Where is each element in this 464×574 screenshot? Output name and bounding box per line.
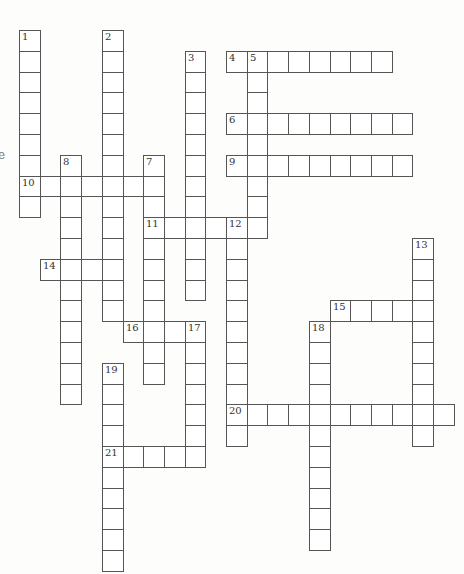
crossword-cell[interactable]: [19, 134, 41, 156]
crossword-cell[interactable]: [247, 404, 268, 426]
crossword-cell[interactable]: [247, 92, 268, 114]
crossword-cell[interactable]: [267, 155, 289, 177]
crossword-cell[interactable]: [433, 404, 455, 426]
crossword-cell[interactable]: 7: [143, 155, 165, 177]
crossword-cell[interactable]: 16: [123, 321, 144, 343]
crossword-cell[interactable]: 9: [226, 155, 248, 177]
crossword-cell[interactable]: 13: [412, 238, 434, 260]
crossword-cell[interactable]: [102, 550, 124, 572]
crossword-cell[interactable]: [247, 217, 268, 239]
crossword-cell[interactable]: [185, 134, 206, 156]
crossword-cell[interactable]: [309, 508, 331, 530]
crossword-cell[interactable]: [309, 425, 331, 447]
crossword-cell[interactable]: 4: [226, 51, 248, 73]
crossword-cell[interactable]: [102, 384, 124, 405]
crossword-cell[interactable]: [81, 259, 103, 281]
crossword-cell[interactable]: [226, 384, 248, 405]
crossword-cell[interactable]: [102, 51, 124, 73]
crossword-cell[interactable]: [19, 113, 41, 135]
crossword-cell[interactable]: 18: [309, 321, 331, 343]
crossword-cell[interactable]: [350, 113, 372, 135]
crossword-cell[interactable]: [185, 446, 206, 468]
crossword-cell[interactable]: [309, 488, 331, 509]
crossword-cell[interactable]: [226, 259, 248, 281]
crossword-cell[interactable]: [60, 259, 82, 281]
crossword-cell[interactable]: [102, 155, 124, 177]
crossword-cell[interactable]: [309, 363, 331, 385]
crossword-cell[interactable]: [412, 300, 434, 322]
crossword-cell[interactable]: [350, 51, 372, 73]
crossword-cell[interactable]: [185, 404, 206, 426]
crossword-cell[interactable]: [60, 384, 82, 405]
crossword-cell[interactable]: [60, 280, 82, 301]
crossword-cell[interactable]: [330, 404, 351, 426]
crossword-cell[interactable]: [60, 176, 82, 197]
crossword-cell[interactable]: [102, 196, 124, 218]
crossword-cell[interactable]: [185, 217, 206, 239]
crossword-cell[interactable]: [371, 300, 393, 322]
crossword-cell[interactable]: [102, 217, 124, 239]
crossword-cell[interactable]: [350, 155, 372, 177]
crossword-cell[interactable]: [143, 259, 165, 281]
crossword-cell[interactable]: [60, 321, 82, 343]
crossword-cell[interactable]: [185, 280, 206, 301]
crossword-cell[interactable]: [102, 72, 124, 93]
crossword-cell[interactable]: [226, 238, 248, 260]
crossword-cell[interactable]: 3: [185, 51, 206, 73]
crossword-cell[interactable]: [102, 425, 124, 447]
crossword-cell[interactable]: [102, 259, 124, 281]
crossword-cell[interactable]: [309, 155, 331, 177]
crossword-cell[interactable]: [102, 529, 124, 551]
crossword-cell[interactable]: [143, 446, 165, 468]
crossword-cell[interactable]: [81, 176, 103, 197]
crossword-cell[interactable]: 21: [102, 446, 124, 468]
crossword-cell[interactable]: [288, 51, 310, 73]
crossword-cell[interactable]: [102, 508, 124, 530]
crossword-cell[interactable]: [412, 280, 434, 301]
crossword-cell[interactable]: [226, 280, 248, 301]
crossword-cell[interactable]: [185, 196, 206, 218]
crossword-cell[interactable]: [371, 155, 393, 177]
crossword-cell[interactable]: [412, 321, 434, 343]
crossword-cell[interactable]: [185, 425, 206, 447]
crossword-cell[interactable]: [247, 72, 268, 93]
crossword-cell[interactable]: [60, 196, 82, 218]
crossword-cell[interactable]: [309, 113, 331, 135]
crossword-cell[interactable]: [309, 342, 331, 364]
crossword-cell[interactable]: [102, 238, 124, 260]
crossword-cell[interactable]: [60, 300, 82, 322]
crossword-cell[interactable]: [226, 300, 248, 322]
crossword-cell[interactable]: [185, 384, 206, 405]
crossword-cell[interactable]: 2: [102, 30, 124, 52]
crossword-cell[interactable]: [60, 238, 82, 260]
crossword-cell[interactable]: [412, 425, 434, 447]
crossword-cell[interactable]: [371, 404, 393, 426]
crossword-cell[interactable]: [60, 363, 82, 385]
crossword-cell[interactable]: [143, 176, 165, 197]
crossword-cell[interactable]: [371, 51, 393, 73]
crossword-cell[interactable]: [247, 176, 268, 197]
crossword-cell[interactable]: [19, 92, 41, 114]
crossword-cell[interactable]: 5: [247, 51, 268, 73]
crossword-cell[interactable]: [330, 113, 351, 135]
crossword-cell[interactable]: 19: [102, 363, 124, 385]
crossword-cell[interactable]: [123, 446, 144, 468]
crossword-cell[interactable]: 8: [60, 155, 82, 177]
crossword-cell[interactable]: [330, 51, 351, 73]
crossword-cell[interactable]: [412, 342, 434, 364]
crossword-cell[interactable]: [247, 155, 268, 177]
crossword-cell[interactable]: [164, 446, 186, 468]
crossword-cell[interactable]: [102, 467, 124, 489]
crossword-cell[interactable]: [267, 51, 289, 73]
crossword-cell[interactable]: [143, 363, 165, 385]
crossword-cell[interactable]: [143, 280, 165, 301]
crossword-cell[interactable]: [309, 404, 331, 426]
crossword-cell[interactable]: [288, 113, 310, 135]
crossword-cell[interactable]: [185, 363, 206, 385]
crossword-cell[interactable]: [412, 384, 434, 405]
crossword-cell[interactable]: 17: [185, 321, 206, 343]
crossword-cell[interactable]: [371, 113, 393, 135]
crossword-cell[interactable]: [412, 259, 434, 281]
crossword-cell[interactable]: [412, 363, 434, 385]
crossword-cell[interactable]: [330, 155, 351, 177]
